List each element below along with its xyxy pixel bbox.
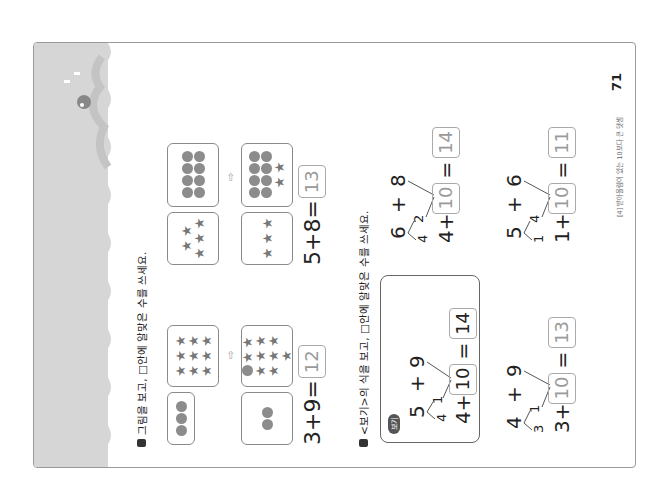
worksheet-page: 그림을 보고, □안에 알맞은 수를 쓰세요. ★★★ ★★★ ★★★ ⇨ ★★… xyxy=(33,42,636,468)
sparkle-icon xyxy=(64,80,70,83)
arrow-icon: ⇨ xyxy=(225,173,236,181)
result-box[interactable]: 13 xyxy=(548,317,576,348)
result-box[interactable]: 14 xyxy=(432,127,460,158)
ten-box[interactable]: 10 xyxy=(432,183,460,214)
chapter-footer: [4] 받아올림이 있는 10보다 큰 덧셈 xyxy=(614,117,624,217)
section1-instruction: 그림을 보고, □안에 알맞은 수를 쓰세요. xyxy=(134,252,149,447)
answer-box[interactable]: 12 xyxy=(298,345,326,378)
section2-instruction: <보기>의 식을 보고, □안에 알맞은 수를 쓰세요. xyxy=(356,211,371,447)
result-box: 14 xyxy=(449,308,477,339)
answer-box[interactable]: 13 xyxy=(298,165,326,198)
equation-5-plus-8: 5+8= 13 xyxy=(298,165,326,265)
ten-box[interactable]: 10 xyxy=(548,373,576,404)
page-number: 71 xyxy=(609,73,624,91)
bullet-icon xyxy=(137,439,146,447)
problem-6-plus-8: 6 + 8 4 2 4+ 10 = 14 xyxy=(384,83,474,253)
card-8-dots xyxy=(167,143,219,207)
wave-decoration xyxy=(34,42,124,467)
card-2-dots xyxy=(241,392,293,445)
bullet-icon xyxy=(359,439,368,447)
problem-4-plus-9: 4 + 9 3 1 3+ 10 = 13 xyxy=(500,273,590,443)
decorative-band xyxy=(34,42,108,467)
card-8-dots-2-stars: ★★ xyxy=(241,143,293,207)
ten-box: 10 xyxy=(449,364,477,395)
ten-box[interactable]: 10 xyxy=(548,183,576,214)
example-box: 보기 5 + 9 4 1 4+ 10 = 14 xyxy=(380,275,480,443)
equation-3-plus-9: 3+9= 12 xyxy=(298,345,326,445)
character-icon xyxy=(77,95,91,109)
arrow-icon: ⇨ xyxy=(225,351,236,359)
problem-5-plus-6: 5 + 6 1 4 1+ 10 = 11 xyxy=(500,83,590,253)
card-3-dots xyxy=(167,392,195,445)
card-3-stars: ★★★ xyxy=(241,212,293,265)
page-frame: 그림을 보고, □안에 알맞은 수를 쓰세요. ★★★ ★★★ ★★★ ⇨ ★★… xyxy=(33,42,636,468)
result-box[interactable]: 11 xyxy=(548,127,576,158)
card-9-stars-1-dot: ★★★ ★★★ ★★★ xyxy=(241,325,293,387)
card-9-stars: ★★★ ★★★ ★★★ xyxy=(167,325,219,387)
card-5-stars: ★★ ★★★ xyxy=(167,212,219,265)
